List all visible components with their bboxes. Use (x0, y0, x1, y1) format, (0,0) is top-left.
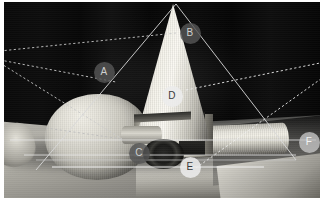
marker-e[interactable]: E (180, 157, 201, 178)
marker-b[interactable]: B (180, 23, 201, 44)
marker-a[interactable]: A (94, 62, 115, 83)
marker-f[interactable]: F (299, 132, 320, 153)
screenshot-root: ABCDEF (0, 0, 325, 206)
marker-label: D (168, 91, 175, 101)
marker-label: E (187, 162, 194, 172)
vp-left-ray-1 (4, 33, 176, 51)
marker-label: B (187, 28, 194, 38)
marker-c[interactable]: C (129, 143, 150, 164)
vp-right-ray-2 (196, 76, 320, 168)
marker-label: A (101, 67, 108, 77)
marker-label: F (306, 137, 312, 147)
marker-label: C (135, 148, 142, 158)
cone-left-projection (36, 4, 176, 170)
vp-right-ray-1 (186, 62, 320, 90)
photograph: ABCDEF (4, 2, 320, 198)
marker-d[interactable]: D (162, 86, 183, 107)
construction-line-group (10, 4, 316, 170)
sphere-axis (46, 128, 122, 139)
